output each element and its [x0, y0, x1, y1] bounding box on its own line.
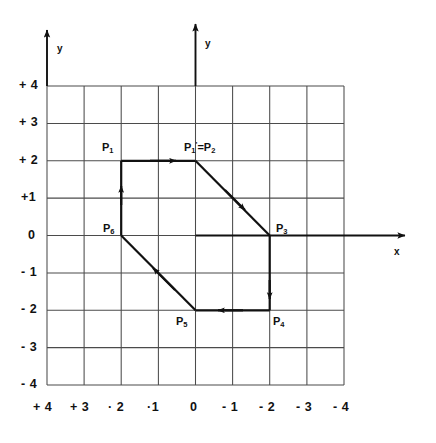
x-tick-0: 0 [190, 400, 197, 414]
y-tick-m4: - 4 [21, 377, 37, 391]
p6-subscript: 6 [110, 227, 114, 236]
point-label-p1prime-p2: P1'=P2 [184, 141, 215, 153]
x-tick-4: + 4 [33, 400, 52, 414]
x-tick-2: · 2 [108, 400, 124, 414]
y-tick-4: + 4 [19, 78, 38, 92]
left-y-axis-label: y [57, 43, 63, 54]
y-tick-3: + 3 [19, 115, 38, 129]
p3-subscript: 3 [283, 227, 287, 236]
p2-suffix-subscript: 2 [211, 146, 215, 155]
y-tick-m3: - 3 [21, 340, 37, 354]
coordinate-diagram: + 4 + 3 + 2 +1 0 - 1 - 2 - 3 - 4 + 4 + 3… [0, 0, 436, 443]
point-label-p3: P3 [276, 222, 288, 234]
y-tick-m1: - 1 [21, 265, 37, 279]
p4-subscript: 4 [280, 320, 284, 329]
p5-subscript: 5 [183, 320, 187, 329]
p1-subscript: 1 [109, 146, 113, 155]
y-tick-2: + 2 [19, 153, 38, 167]
diagram-svg [0, 0, 436, 443]
x-tick-m4: - 4 [333, 400, 349, 414]
x-tick-m3: - 3 [296, 400, 312, 414]
point-label-p4: P4 [273, 315, 285, 327]
y-tick-m2: - 2 [21, 302, 37, 316]
center-y-axis-label: y [205, 38, 211, 49]
p2-subscript: 1 [191, 146, 195, 155]
axis-lines [47, 24, 405, 236]
x-axis-label: x [394, 246, 400, 257]
arrow-upleft-p5-p6 [153, 268, 175, 290]
x-tick-3: + 3 [70, 400, 89, 414]
x-tick-m2: - 2 [259, 400, 275, 414]
point-label-p5: P5 [176, 315, 188, 327]
x-tick-1: ·1 [147, 400, 159, 414]
arrow-down-p2-p3 [225, 190, 245, 210]
point-label-p6: P6 [103, 222, 115, 234]
x-tick-m1: - 1 [222, 400, 238, 414]
y-tick-1: +1 [21, 190, 36, 204]
p2-suffix: =P [197, 141, 211, 153]
point-label-p1: P1 [102, 141, 114, 153]
y-tick-0: 0 [28, 228, 35, 242]
